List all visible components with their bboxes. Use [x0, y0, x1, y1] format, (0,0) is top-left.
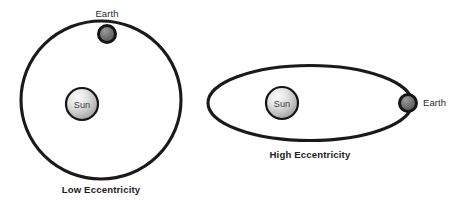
sun-label: Sun — [74, 100, 91, 110]
earth-high-eccentricity: Earth — [400, 95, 447, 112]
caption-high-eccentricity: High Eccentricity — [270, 149, 351, 160]
sun-high-eccentricity: Sun — [266, 87, 298, 119]
caption-low-eccentricity: Low Eccentricity — [62, 184, 141, 195]
orbital-eccentricity-diagram: Sun Earth Low Eccentricity Sun Earth Hig… — [0, 0, 464, 207]
earth-circle — [99, 26, 116, 43]
orbit-path-low-eccentricity — [21, 21, 181, 179]
earth-circle — [400, 95, 417, 112]
panel-low-eccentricity: Sun Earth Low Eccentricity — [21, 8, 181, 195]
sun-label: Sun — [274, 99, 291, 109]
earth-label: Earth — [423, 97, 446, 108]
earth-label: Earth — [95, 8, 118, 19]
sun-low-eccentricity: Sun — [66, 88, 98, 120]
earth-low-eccentricity: Earth — [95, 8, 118, 43]
diagram-canvas: Sun Earth Low Eccentricity Sun Earth Hig… — [0, 0, 464, 207]
panel-high-eccentricity: Sun Earth High Eccentricity — [208, 66, 446, 161]
orbit-path-high-eccentricity — [208, 66, 412, 141]
